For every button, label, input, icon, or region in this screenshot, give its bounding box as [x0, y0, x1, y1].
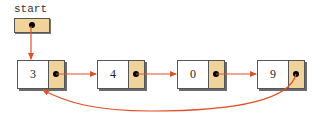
pointer-dot-icon [213, 71, 219, 77]
pointer-dot-icon [293, 71, 299, 77]
list-node-3: 0 [177, 60, 225, 89]
pointer-dot-icon [53, 71, 59, 77]
list-node-4: 9 [257, 60, 305, 89]
node-value: 0 [178, 61, 209, 88]
node-value: 4 [98, 61, 129, 88]
start-pointer-box [14, 18, 50, 33]
node-value: 3 [18, 61, 49, 88]
list-node-2: 4 [97, 60, 145, 89]
pointer-dot-icon [133, 71, 139, 77]
pointer-dot-icon [29, 22, 35, 28]
list-node-1: 3 [17, 60, 65, 89]
node-next-pointer [129, 61, 144, 88]
pointer-arrows [0, 0, 321, 113]
node-next-pointer [209, 61, 224, 88]
start-label: start [14, 3, 47, 15]
node-value: 9 [258, 61, 289, 88]
node-next-pointer [49, 61, 64, 88]
node-next-pointer [289, 61, 304, 88]
